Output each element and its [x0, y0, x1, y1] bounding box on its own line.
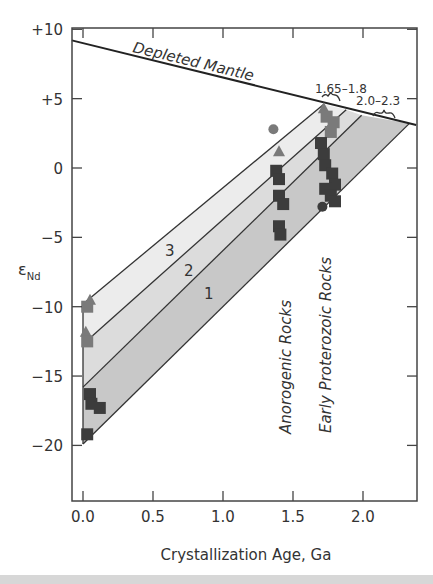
data-point-circle	[317, 202, 327, 212]
data-point-square	[326, 168, 338, 180]
data-point-square	[315, 137, 327, 149]
data-point-square	[318, 148, 330, 160]
y-tick-label: −10	[31, 299, 63, 317]
data-point-square	[81, 301, 93, 313]
data-point-square	[273, 173, 285, 185]
data-point-square	[277, 198, 289, 210]
data-point-square	[81, 428, 93, 440]
band-label-3: 3	[165, 242, 175, 260]
y-tick-label: −20	[31, 437, 63, 455]
evolution-bands	[83, 104, 409, 444]
data-point-circle	[268, 124, 278, 134]
x-axis-label: Crystallization Age, Ga	[161, 546, 332, 564]
y-tick-label: −5	[41, 229, 63, 247]
depleted-mantle-label: Depleted Mantle	[131, 38, 256, 84]
data-point-square	[81, 335, 93, 347]
chart: 0.00.51.01.52.0 +10+50−5−10−15−20 Deplet…	[0, 0, 433, 584]
data-point-square	[325, 126, 337, 138]
range-label-2: 2.0–2.3	[356, 94, 400, 108]
x-tick-label: 0.0	[71, 508, 95, 526]
y-axis-label: εNd	[18, 260, 40, 282]
x-tick-label: 0.5	[141, 508, 165, 526]
data-point-square	[329, 195, 341, 207]
early-proterozoic-rocks-label: Early Proterozoic Rocks	[317, 257, 335, 433]
y-tick-label: −15	[31, 368, 63, 386]
x-tick-label: 1.0	[211, 508, 235, 526]
anorogenic-rocks-label: Anorogenic Rocks	[277, 300, 295, 435]
y-tick-label: 0	[53, 160, 63, 178]
y-tick-label: +10	[31, 21, 63, 39]
data-point-square	[94, 402, 106, 414]
band-label-1: 1	[204, 285, 214, 303]
y-tick-label: +5	[41, 91, 63, 109]
x-tick-label: 1.5	[281, 508, 305, 526]
band-label-2: 2	[184, 262, 194, 280]
data-point-square	[274, 229, 286, 241]
x-tick-label: 2.0	[351, 508, 375, 526]
bottom-strip	[0, 575, 433, 584]
